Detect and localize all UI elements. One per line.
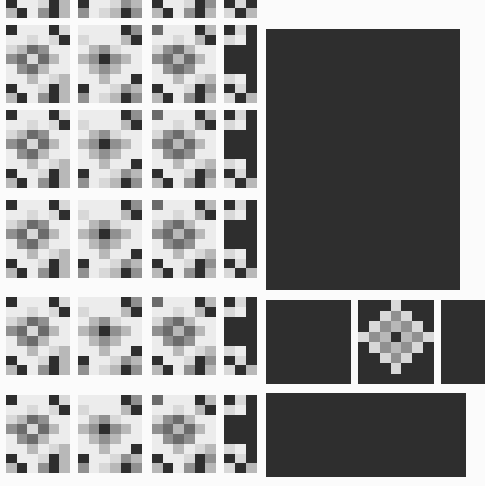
mosaic-tile-1-1[interactable] xyxy=(78,25,142,103)
mosaic-cell xyxy=(121,463,132,473)
mosaic-cell xyxy=(59,326,70,336)
mosaic-cell xyxy=(99,169,110,179)
mosaic-cell xyxy=(78,200,89,210)
mosaic-cell xyxy=(173,307,184,317)
mosaic-tile-3-2[interactable] xyxy=(152,200,216,278)
mosaic-tile-0-2[interactable] xyxy=(152,0,216,18)
mosaic-cell xyxy=(184,249,195,259)
mosaic-cell xyxy=(121,25,132,35)
mosaic-tile-2-2[interactable] xyxy=(152,110,216,188)
mosaic-cell xyxy=(6,169,17,179)
mosaic-tile-4-3[interactable] xyxy=(224,297,257,375)
mosaic-cell xyxy=(380,321,391,332)
mosaic-cell xyxy=(110,259,121,269)
mosaic-cell xyxy=(358,363,369,374)
mosaic-tile-1-0[interactable] xyxy=(6,25,70,103)
mosaic-cell xyxy=(173,45,184,55)
mosaic-tile-5-0[interactable] xyxy=(6,395,70,473)
mosaic-cell xyxy=(205,463,216,473)
mosaic-cell xyxy=(89,317,100,327)
mosaic-tile-3-3[interactable] xyxy=(224,200,257,278)
mosaic-cell xyxy=(131,25,142,35)
mosaic-cell xyxy=(246,405,257,415)
mosaic-cell xyxy=(49,463,60,473)
mosaic-cell xyxy=(6,424,17,434)
mosaic-cell xyxy=(246,239,257,249)
panel-small-right[interactable] xyxy=(441,300,485,384)
mosaic-cell xyxy=(17,463,28,473)
mosaic-tile-diamond[interactable] xyxy=(358,300,434,384)
mosaic-cell xyxy=(78,415,89,425)
mosaic-cell xyxy=(49,346,60,356)
mosaic-tile-4-2[interactable] xyxy=(152,297,216,375)
mosaic-cell xyxy=(205,249,216,259)
mosaic-cell xyxy=(121,178,132,188)
mosaic-cell xyxy=(59,336,70,346)
mosaic-cell xyxy=(27,454,38,464)
mosaic-cell xyxy=(49,130,60,140)
mosaic-cell xyxy=(110,395,121,405)
mosaic-tile-5-2[interactable] xyxy=(152,395,216,473)
mosaic-tile-2-3[interactable] xyxy=(224,110,257,188)
mosaic-tile-0-1[interactable] xyxy=(78,0,142,18)
mosaic-cell xyxy=(27,84,38,94)
mosaic-tile-3-1[interactable] xyxy=(78,200,142,278)
mosaic-cell xyxy=(423,363,434,374)
mosaic-cell xyxy=(59,64,70,74)
mosaic-cell xyxy=(89,336,100,346)
mosaic-cell xyxy=(49,35,60,45)
mosaic-tile-0-0[interactable] xyxy=(6,0,70,18)
mosaic-cell xyxy=(49,110,60,120)
mosaic-cell xyxy=(423,321,434,332)
mosaic-cell xyxy=(246,139,257,149)
mosaic-cell xyxy=(131,178,142,188)
mosaic-cell xyxy=(173,268,184,278)
mosaic-cell xyxy=(235,415,246,425)
mosaic-cell xyxy=(27,424,38,434)
mosaic-cell xyxy=(49,405,60,415)
mosaic-tile-4-0[interactable] xyxy=(6,297,70,375)
mosaic-cell xyxy=(184,307,195,317)
mosaic-cell xyxy=(163,149,174,159)
mosaic-tile-4-1[interactable] xyxy=(78,297,142,375)
mosaic-cell xyxy=(184,169,195,179)
mosaic-tile-0-3[interactable] xyxy=(224,0,257,18)
mosaic-cell xyxy=(358,342,369,353)
mosaic-cell xyxy=(110,93,121,103)
mosaic-cell xyxy=(246,297,257,307)
mosaic-cell xyxy=(163,64,174,74)
mosaic-cell xyxy=(391,332,402,343)
mosaic-tile-1-2[interactable] xyxy=(152,25,216,103)
mosaic-cell xyxy=(246,229,257,239)
panel-small-left[interactable] xyxy=(266,300,351,384)
panel-large-main[interactable] xyxy=(266,29,460,290)
mosaic-tile-2-1[interactable] xyxy=(78,110,142,188)
mosaic-tile-3-0[interactable] xyxy=(6,200,70,278)
mosaic-cell xyxy=(59,130,70,140)
mosaic-cell xyxy=(131,130,142,140)
mosaic-cell xyxy=(17,178,28,188)
mosaic-cell xyxy=(235,35,246,45)
mosaic-cell xyxy=(6,415,17,425)
mosaic-cell xyxy=(110,356,121,366)
mosaic-cell xyxy=(89,415,100,425)
mosaic-cell xyxy=(152,93,163,103)
mosaic-cell xyxy=(121,210,132,220)
mosaic-tile-1-3[interactable] xyxy=(224,25,257,103)
mosaic-tile-5-3[interactable] xyxy=(224,395,257,473)
mosaic-cell xyxy=(195,45,206,55)
mosaic-tile-2-0[interactable] xyxy=(6,110,70,188)
mosaic-cell xyxy=(224,64,235,74)
mosaic-cell xyxy=(163,268,174,278)
mosaic-cell xyxy=(110,64,121,74)
mosaic-cell xyxy=(121,149,132,159)
mosaic-cell xyxy=(195,405,206,415)
mosaic-cell xyxy=(121,239,132,249)
mosaic-cell xyxy=(121,54,132,64)
mosaic-cell xyxy=(131,35,142,45)
mosaic-tile-5-1[interactable] xyxy=(78,395,142,473)
panel-wide-bottom[interactable] xyxy=(266,393,466,477)
mosaic-cell xyxy=(184,35,195,45)
mosaic-cell xyxy=(27,169,38,179)
mosaic-cell xyxy=(78,259,89,269)
